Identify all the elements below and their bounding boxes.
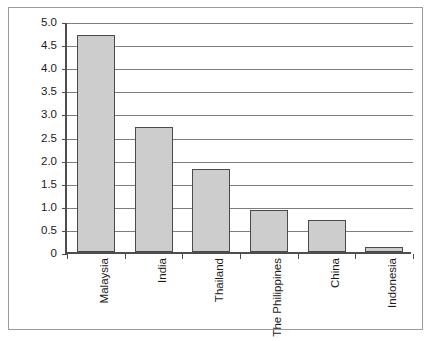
y-axis-tick-label: 3.5 — [15, 86, 57, 98]
y-axis-tick — [62, 69, 67, 70]
gridline — [67, 115, 413, 116]
gridline — [67, 139, 413, 140]
y-axis-tick — [62, 46, 67, 47]
x-axis-tick — [413, 254, 414, 259]
x-axis-category-label: The Philippines — [272, 258, 284, 337]
y-axis-tick — [62, 92, 67, 93]
y-axis-tick-label: 1.5 — [15, 179, 57, 191]
gridline — [67, 46, 413, 47]
y-axis-tick — [62, 162, 67, 163]
y-axis-tick-label: 0.5 — [15, 225, 57, 237]
plot-area — [65, 23, 411, 254]
bar — [365, 247, 403, 252]
gridline — [67, 92, 413, 93]
gridline — [67, 231, 413, 232]
gridline — [67, 23, 413, 24]
x-axis-category-label: Indonesia — [387, 258, 399, 308]
y-axis: 5.04.54.03.53.02.52.01.51.00.50 — [9, 23, 57, 254]
y-axis-tick — [62, 139, 67, 140]
gridline — [67, 208, 413, 209]
gridline — [67, 185, 413, 186]
bar — [192, 169, 230, 252]
y-axis-tick-label: 2.0 — [15, 156, 57, 168]
y-axis-tick-label: 4.0 — [15, 63, 57, 75]
x-axis-category-label: India — [157, 258, 169, 283]
gridline — [67, 162, 413, 163]
bar — [135, 127, 173, 252]
chart-frame: 5.04.54.03.53.02.52.01.51.00.50 Malaysia… — [8, 7, 423, 330]
y-axis-tick — [62, 23, 67, 24]
y-axis-tick — [62, 115, 67, 116]
x-axis: MalaysiaIndiaThailandThe PhilippinesChin… — [65, 258, 411, 330]
y-axis-tick-label: 2.5 — [15, 133, 57, 145]
x-axis-category-label: China — [330, 258, 342, 288]
x-axis-category-label: Malaysia — [99, 258, 111, 303]
y-axis-tick — [62, 185, 67, 186]
y-axis-tick-label: 5.0 — [15, 17, 57, 29]
gridline — [67, 69, 413, 70]
bar — [250, 210, 288, 252]
y-axis-tick — [62, 208, 67, 209]
bar — [77, 35, 115, 252]
y-axis-tick-label: 4.5 — [15, 40, 57, 52]
y-axis-tick-label: 3.0 — [15, 109, 57, 121]
x-axis-category-label: Thailand — [214, 258, 226, 302]
bar — [308, 220, 346, 252]
y-axis-tick-label: 0 — [15, 248, 57, 260]
y-axis-tick-label: 1.0 — [15, 202, 57, 214]
y-axis-tick — [62, 231, 67, 232]
